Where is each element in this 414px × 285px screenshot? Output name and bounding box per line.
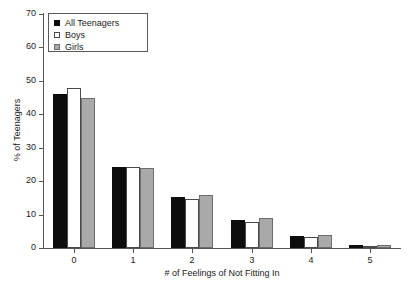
bar-boys-1 [126, 167, 140, 248]
legend: All TeenagersBoysGirls [48, 13, 148, 52]
caption-sliver [8, 277, 406, 283]
y-axis-tick [39, 248, 44, 249]
legend-item-girls: Girls [54, 41, 147, 52]
bar-all-teenagers-3 [231, 220, 245, 248]
x-axis-tick-label: 5 [355, 255, 385, 265]
y-axis-tick-label: 60 [6, 42, 36, 51]
bar-girls-1 [140, 168, 154, 248]
x-axis-tick-label: 2 [177, 255, 207, 265]
bar-boys-2 [185, 199, 199, 248]
x-axis-tick [74, 249, 75, 253]
x-axis-tick-label: 4 [296, 255, 326, 265]
bar-all-teenagers-1 [112, 167, 126, 248]
y-axis-tick-label: 0 [6, 243, 36, 252]
bar-boys-3 [245, 222, 259, 248]
bar-all-teenagers-5 [349, 245, 363, 248]
bar-girls-2 [199, 195, 213, 248]
y-axis-tick-label: 70 [6, 9, 36, 18]
bar-girls-0 [81, 98, 95, 248]
x-axis-tick-label: 3 [237, 255, 267, 265]
x-axis-tick [133, 249, 134, 253]
legend-swatch-icon [54, 44, 60, 50]
bar-all-teenagers-0 [53, 94, 67, 248]
bar-girls-3 [259, 218, 273, 248]
x-axis-line [43, 248, 401, 249]
x-axis-tick [311, 249, 312, 253]
bar-all-teenagers-4 [290, 236, 304, 248]
x-axis-tick [252, 249, 253, 253]
legend-item-label: Girls [65, 42, 84, 52]
x-axis-tick-label: 0 [59, 255, 89, 265]
y-axis-tick-label: 10 [6, 210, 36, 219]
x-axis-tick-label: 1 [118, 255, 148, 265]
x-axis-tick [370, 249, 371, 253]
legend-item-all-teenagers: All Teenagers [54, 17, 147, 28]
legend-swatch-icon [54, 20, 60, 26]
bar-girls-4 [318, 235, 332, 248]
legend-item-label: Boys [65, 30, 85, 40]
bar-all-teenagers-2 [171, 197, 185, 248]
legend-item-boys: Boys [54, 29, 147, 40]
legend-item-label: All Teenagers [65, 18, 119, 28]
y-axis-title: % of Teenagers [12, 70, 22, 190]
legend-swatch-icon [54, 32, 60, 38]
x-axis-tick [192, 249, 193, 253]
bar-girls-5 [377, 245, 391, 248]
figure-bar-chart: 010203040506070 012345 % of Teenagers # … [0, 0, 414, 285]
bar-boys-5 [363, 246, 377, 248]
bar-boys-0 [67, 88, 81, 248]
bar-boys-4 [304, 237, 318, 248]
